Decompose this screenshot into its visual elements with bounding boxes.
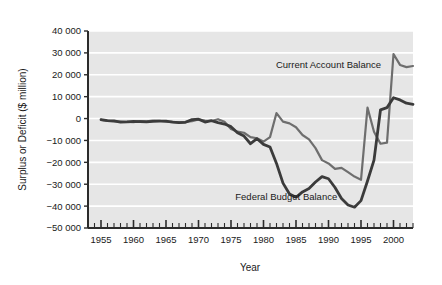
y-tick-label: −30 000 [46, 179, 81, 190]
x-tick-label: 1975 [220, 234, 241, 245]
x-tick-label: 1980 [253, 234, 274, 245]
y-tick-label: 30 000 [52, 47, 81, 58]
x-tick-label: 1990 [318, 234, 339, 245]
x-tick-label: 1960 [123, 234, 144, 245]
y-tick-label: −20 000 [46, 157, 81, 168]
x-tick-label: 2000 [383, 234, 404, 245]
federal-budget-balance-label: Federal Budget Balance [235, 191, 337, 202]
y-tick-label: 0 [76, 113, 81, 124]
line-chart: 40 00030 00020 00010 0000−10 000−20 000−… [0, 0, 442, 285]
y-tick-label: 40 000 [52, 25, 81, 36]
x-tick-label: 1995 [350, 234, 371, 245]
y-tick-label: 20 000 [52, 69, 81, 80]
y-axis-title: Surplus or Deficit ($ million) [17, 68, 28, 190]
x-axis-title: Year [240, 262, 261, 273]
y-tick-label: −10 000 [46, 135, 81, 146]
chart-figure: 40 00030 00020 00010 0000−10 000−20 000−… [0, 0, 442, 285]
y-tick-label: 10 000 [52, 91, 81, 102]
x-tick-label: 1955 [90, 234, 111, 245]
x-tick-label: 1985 [285, 234, 306, 245]
x-tick-label: 1965 [155, 234, 176, 245]
y-tick-label: −50 000 [46, 222, 81, 233]
x-tick-label: 1970 [188, 234, 209, 245]
current-account-balance-label: Current Account Balance [276, 59, 381, 70]
y-tick-label: −40 000 [46, 201, 81, 212]
